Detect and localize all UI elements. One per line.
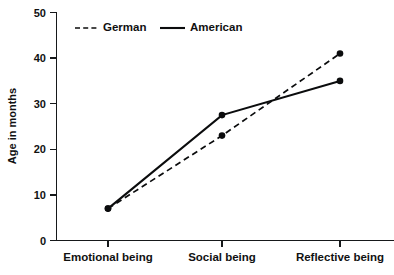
y-tick-label-20: 20: [34, 143, 46, 155]
chart-canvas: 0 10 20 30 40 50 Age in months Emotional…: [0, 0, 394, 275]
y-tick-label-40: 40: [34, 52, 46, 64]
data-point-german-1: [219, 132, 226, 139]
y-tick-label-30: 30: [34, 98, 46, 110]
data-series-layer: [105, 50, 344, 212]
series-line-american: [108, 81, 340, 209]
x-label-reflective-being: Reflective being: [296, 251, 384, 263]
series-line-german: [108, 54, 340, 209]
x-axis-ticks: [108, 241, 340, 248]
data-point-american-0: [105, 205, 112, 212]
legend-label-american: American: [190, 21, 242, 33]
x-label-social-being: Social being: [188, 251, 256, 263]
chart-legend: German American: [75, 21, 242, 33]
x-label-emotional-being: Emotional being: [63, 251, 152, 263]
y-axis-ticks: [50, 13, 57, 241]
data-point-german-2: [337, 50, 344, 57]
y-axis-tick-labels: 0 10 20 30 40 50: [34, 7, 46, 247]
y-tick-label-50: 50: [34, 7, 46, 19]
y-axis-title: Age in months: [6, 88, 18, 164]
data-point-american-1: [219, 112, 226, 119]
data-point-american-2: [337, 78, 344, 85]
line-chart: 0 10 20 30 40 50 Age in months Emotional…: [0, 0, 394, 275]
y-tick-label-10: 10: [34, 189, 46, 201]
legend-label-german: German: [103, 21, 146, 33]
x-axis-category-labels: Emotional being Social being Reflective …: [63, 251, 384, 263]
y-tick-label-0: 0: [40, 235, 46, 247]
